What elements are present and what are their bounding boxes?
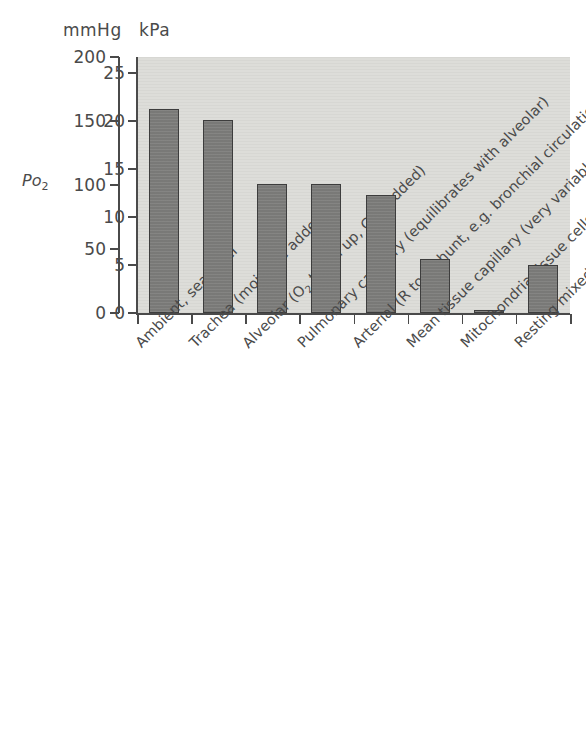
bar [257, 184, 287, 313]
y-tick-mmhg [110, 56, 119, 58]
x-tick [245, 314, 247, 324]
y-tick-kpa [128, 72, 137, 74]
y-tick-label-kpa: 5 [88, 255, 125, 275]
x-tick [137, 314, 139, 324]
y-tick-label-kpa: 15 [88, 159, 125, 179]
y-tick-kpa [128, 216, 137, 218]
x-tick [462, 314, 464, 324]
y-axis-title: Po2 [22, 171, 48, 193]
y-axis-spine-kpa [136, 57, 138, 313]
y-axis-title-p: P [22, 171, 32, 190]
unit-header-mmhg: mmHg [63, 20, 122, 40]
x-tick [299, 314, 301, 324]
x-tick [516, 314, 518, 324]
y-tick-kpa [128, 312, 137, 314]
y-tick-label-kpa: 10 [88, 207, 125, 227]
bar [203, 120, 233, 313]
y-tick-kpa [128, 120, 137, 122]
unit-header-kpa: kPa [139, 20, 170, 40]
y-tick-label-kpa: 25 [88, 63, 125, 83]
x-tick [191, 314, 193, 324]
y-axis-title-o: o [32, 171, 42, 190]
x-tick [408, 314, 410, 324]
bar [149, 109, 179, 313]
bar [366, 195, 396, 313]
y-tick-mmhg [110, 248, 119, 250]
y-tick-kpa [128, 168, 137, 170]
y-tick-label-kpa: 20 [88, 111, 125, 131]
y-tick-label-kpa: 0 [88, 303, 125, 323]
y-tick-kpa [128, 264, 137, 266]
bar [311, 184, 341, 313]
figure-root: mmHg kPa Po2 2001501005002520151050Ambie… [0, 0, 586, 731]
x-tick [570, 314, 572, 324]
x-tick [354, 314, 356, 324]
y-tick-mmhg [110, 184, 119, 186]
